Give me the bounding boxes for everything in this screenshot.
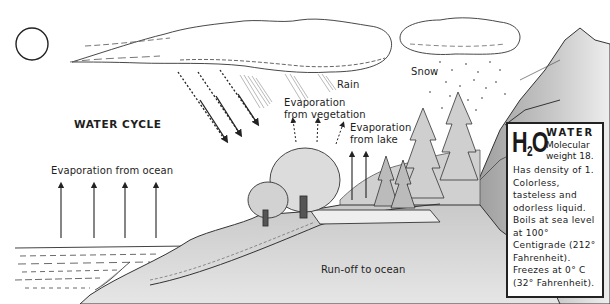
water-info-box: H2O WATER Molecular weight 18. Has densi… — [506, 122, 604, 298]
rain-cloud — [70, 19, 392, 72]
snow-label: Snow — [411, 66, 438, 78]
infobox-heading: WATER — [546, 127, 594, 138]
rain-label: Rain — [337, 79, 359, 91]
evaporation-lake-label-line2: from lake — [350, 134, 398, 146]
formula-h: H — [512, 125, 527, 158]
runoff-label: Run-off to ocean — [321, 264, 405, 276]
snowflakes — [429, 61, 506, 113]
rain-arrows — [178, 70, 257, 140]
sun-icon — [16, 28, 48, 60]
evaporation-ocean-label: Evaporation from ocean — [51, 165, 173, 177]
vegetation-evaporation-arrows — [293, 120, 343, 144]
evaporation-vegetation-label-line2: from vegetation — [284, 109, 366, 121]
diagram-title: WATER CYCLE — [74, 118, 162, 130]
lake — [310, 210, 440, 224]
h2o-formula: H2O — [512, 127, 548, 166]
snow-cloud — [400, 18, 520, 55]
evaporation-lake-label-line1: Evaporation — [350, 122, 411, 134]
infobox-molecular-weight: Molecular weight 18. — [546, 140, 594, 162]
molecular-line1: Molecular — [546, 140, 594, 151]
infobox-body: Has density of 1. Colorless, tasteless a… — [513, 164, 601, 289]
evaporation-vegetation-label-line1: Evaporation — [284, 97, 345, 109]
molecular-line2: weight 18. — [546, 151, 594, 162]
ocean-evaporation-arrows — [61, 185, 156, 238]
